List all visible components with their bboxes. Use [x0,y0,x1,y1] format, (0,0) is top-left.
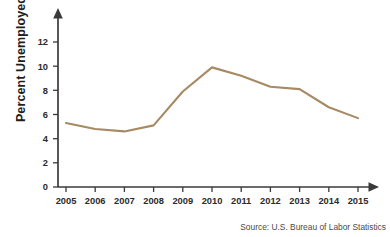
y-tick-label-2: 2 [43,158,48,168]
y-tick-label-4: 4 [43,134,49,144]
y-tick-label-6: 6 [43,110,48,120]
x-ticks-group: 2005 2006 2007 2008 2009 2010 2011 2012 … [56,187,369,206]
x-tick-label-2014: 2014 [318,196,340,206]
chart-plot-area: 0 2 4 6 8 10 12 2005 2006 2007 2008 2009 [0,0,390,237]
x-tick-label-2005: 2005 [56,196,77,206]
y-tick-label-12: 12 [38,37,48,47]
x-tick-label-2011: 2011 [231,196,251,206]
unemployment-line-chart: Percent Unemployed 0 2 4 6 8 10 12 [0,0,390,237]
x-axis-arrowhead [369,182,380,192]
x-tick-label-2009: 2009 [172,196,193,206]
y-tick-label-8: 8 [43,86,48,96]
unemployment-series-line [66,67,358,131]
x-tick-label-2012: 2012 [260,196,281,206]
axes-group [53,8,379,192]
y-axis-arrowhead [53,8,63,19]
y-ticks-group: 0 2 4 6 8 10 12 [38,37,58,192]
x-tick-label-2007: 2007 [114,196,135,206]
x-tick-label-2006: 2006 [85,196,106,206]
y-tick-label-0: 0 [43,182,48,192]
x-tick-label-2008: 2008 [143,196,164,206]
x-tick-label-2015: 2015 [348,196,369,206]
source-attribution: Source: U.S. Bureau of Labor Statistics [240,222,386,232]
x-tick-label-2010: 2010 [202,196,223,206]
x-tick-label-2013: 2013 [289,196,310,206]
y-tick-label-10: 10 [38,62,48,72]
